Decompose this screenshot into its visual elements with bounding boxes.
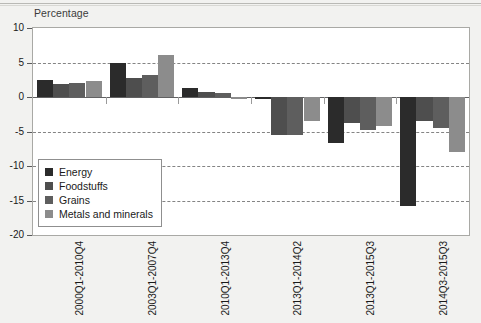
legend-item-label: Grains	[59, 194, 90, 206]
bar	[37, 80, 53, 97]
y-tick-label: 10	[0, 23, 24, 33]
group-tick	[324, 97, 325, 104]
header-rule-secondary	[0, 5, 481, 6]
bar	[449, 97, 465, 152]
bar	[126, 78, 142, 97]
bar	[271, 97, 287, 135]
group-tick	[396, 97, 397, 104]
bar	[433, 97, 449, 128]
y-tick-label: -5	[0, 127, 24, 137]
legend-item-label: Foodstuffs	[59, 180, 108, 192]
bar	[53, 84, 69, 97]
bar	[69, 83, 85, 97]
y-tick-label: 5	[0, 58, 24, 68]
bar	[110, 63, 126, 97]
y-tick-label: 0	[0, 92, 24, 102]
bar	[344, 97, 360, 123]
x-tick-label: 2013Q1-2015Q3	[365, 241, 376, 316]
legend-item-label: Energy	[59, 166, 92, 178]
bar	[158, 55, 174, 97]
group-tick	[251, 97, 252, 104]
y-tick-label: -10	[0, 161, 24, 171]
legend-item-label: Metals and minerals	[59, 208, 153, 220]
bar	[376, 97, 392, 126]
y-tick-label: -15	[0, 196, 24, 206]
bar	[255, 97, 271, 99]
x-tick-label: 2000Q1-2010Q4	[74, 241, 85, 316]
bar	[416, 97, 432, 121]
bar	[304, 97, 320, 121]
legend-swatch-icon	[45, 210, 53, 218]
legend-swatch-icon	[45, 196, 53, 204]
bar	[287, 97, 303, 135]
bar	[231, 97, 247, 99]
x-tick-label: 2010Q1-2013Q4	[220, 241, 231, 316]
chart-legend: EnergyFoodstuffsGrainsMetals and mineral…	[38, 159, 162, 227]
legend-item: Grains	[45, 193, 153, 207]
chart-figure: Percentage 1050-5-10-15-20 EnergyFoodstu…	[0, 0, 481, 323]
bar	[400, 97, 416, 206]
x-tick-label: 2014Q3-2015Q3	[438, 241, 449, 316]
bar	[215, 93, 231, 97]
group-tick	[106, 97, 107, 104]
y-axis-title: Percentage	[34, 7, 89, 19]
bar	[142, 75, 158, 97]
legend-swatch-icon	[45, 182, 53, 190]
legend-item: Foodstuffs	[45, 179, 153, 193]
gridline-5	[33, 63, 469, 64]
bar	[182, 88, 198, 97]
y-tick-label: -20	[0, 230, 24, 240]
group-tick	[178, 97, 179, 104]
bar	[328, 97, 344, 143]
legend-swatch-icon	[45, 168, 53, 176]
bar	[198, 92, 214, 97]
bar	[86, 81, 102, 97]
x-tick-label: 2013Q1-2014Q2	[292, 241, 303, 316]
legend-item: Metals and minerals	[45, 207, 153, 221]
legend-item: Energy	[45, 165, 153, 179]
bar	[360, 97, 376, 130]
header-rule	[0, 3, 481, 4]
x-tick-label: 2003Q1-2007Q4	[147, 241, 158, 316]
